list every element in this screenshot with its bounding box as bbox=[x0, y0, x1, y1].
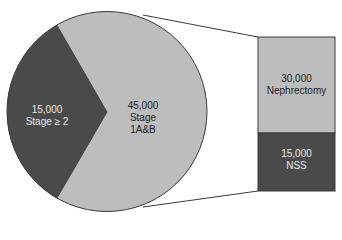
label-nss: 15,000 NSS bbox=[258, 148, 335, 172]
label-nephrectomy-value: 30,000 bbox=[258, 73, 335, 85]
label-stage-1ab-name-1: Stage bbox=[120, 112, 166, 124]
label-stage-2plus-name: Stage ≥ 2 bbox=[12, 116, 82, 128]
label-nss-value: 15,000 bbox=[258, 148, 335, 160]
label-stage-1ab-value: 45,000 bbox=[120, 100, 166, 112]
label-stage-2plus-value: 15,000 bbox=[12, 104, 82, 116]
label-stage-1ab: 45,000 Stage 1A&B bbox=[120, 100, 166, 136]
label-stage-1ab-name-2: 1A&B bbox=[120, 124, 166, 136]
label-nephrectomy-name: Nephrectomy bbox=[258, 85, 335, 97]
label-nss-name: NSS bbox=[258, 160, 335, 172]
label-nephrectomy: 30,000 Nephrectomy bbox=[258, 73, 335, 97]
label-stage-2plus: 15,000 Stage ≥ 2 bbox=[12, 104, 82, 128]
